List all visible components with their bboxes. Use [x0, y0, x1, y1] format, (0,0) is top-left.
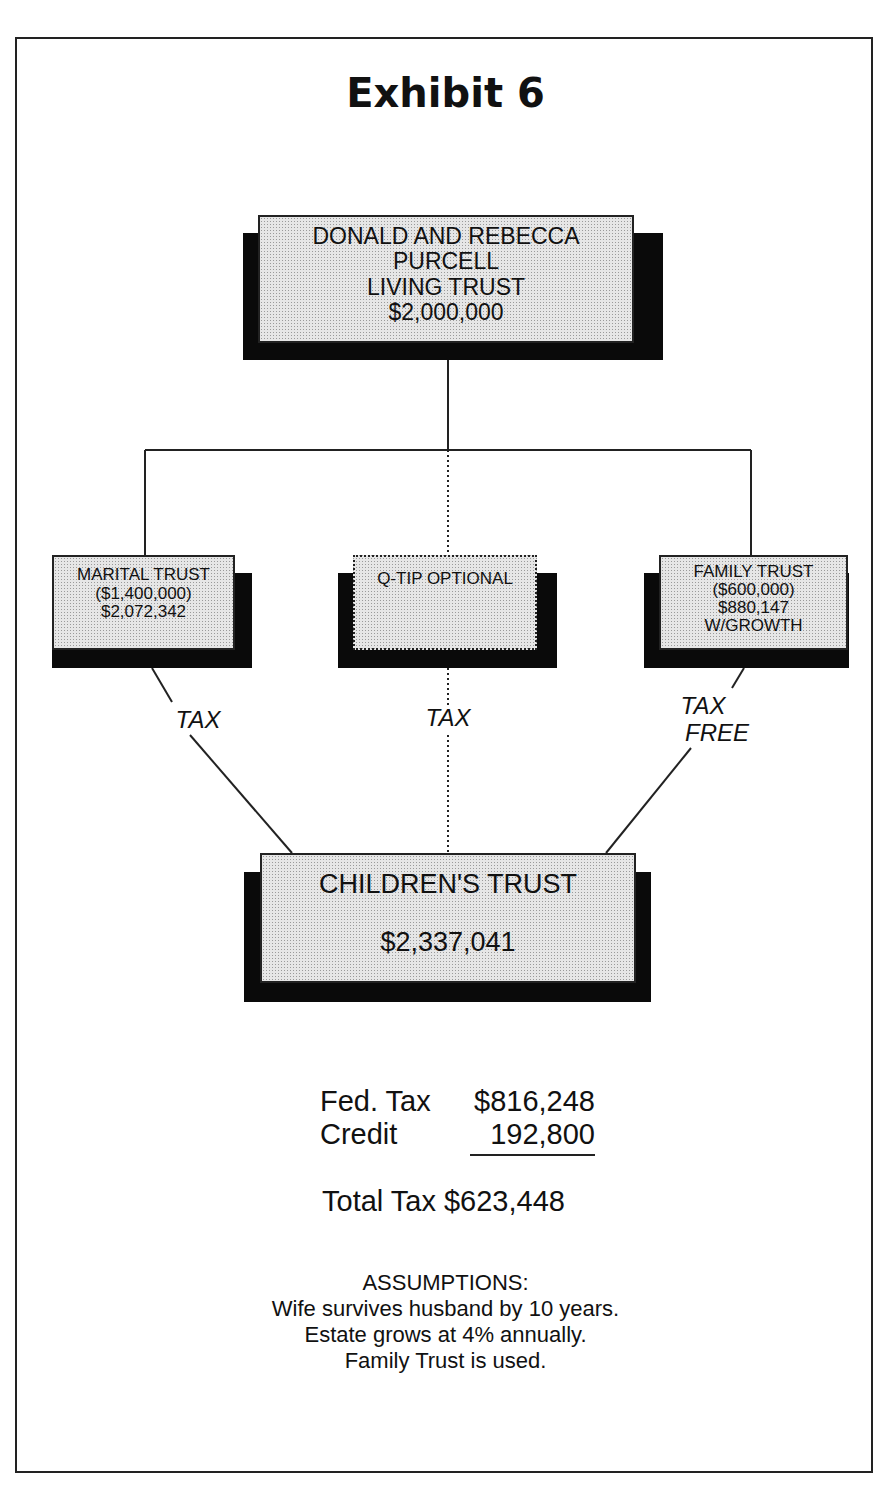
total-tax-label: Total Tax [322, 1185, 436, 1217]
connector-family-lower [606, 748, 691, 853]
tax-row-value: 192,800 [470, 1118, 595, 1155]
marital-trust-line-2: ($1,400,000) [54, 585, 233, 604]
total-tax: Total Tax $623,448 [322, 1185, 565, 1218]
living-trust-box[interactable]: DONALD AND REBECCA PURCELL LIVING TRUST … [258, 215, 634, 343]
childrens-trust-box[interactable]: CHILDREN'S TRUST $2,337,041 [260, 853, 636, 983]
family-trust-line-4: W/GROWTH [661, 617, 846, 635]
tax-row-fed: Fed. Tax $816,248 [320, 1085, 595, 1118]
tax-row-value: $816,248 [470, 1085, 595, 1118]
edge-label-family-free: FREE [677, 720, 757, 745]
edge-label-marital-tax: TAX [163, 707, 233, 732]
assumptions-heading: ASSUMPTIONS: [0, 1270, 891, 1296]
tax-summary: Fed. Tax $816,248 Credit 192,800 [320, 1085, 595, 1156]
tax-row-label: Fed. Tax [320, 1085, 470, 1118]
marital-trust-line-1: MARITAL TRUST [54, 566, 233, 585]
family-trust-line-3: $880,147 [661, 599, 846, 617]
living-trust-line-2: PURCELL [260, 249, 632, 274]
living-trust-line-1: DONALD AND REBECCA [260, 224, 632, 249]
tax-row-label: Credit [320, 1118, 470, 1155]
qtip-box[interactable]: Q-TIP OPTIONAL [353, 555, 537, 650]
family-trust-line-2: ($600,000) [661, 581, 846, 599]
connector-family-upper [732, 668, 744, 688]
living-trust-line-3: LIVING TRUST [260, 275, 632, 300]
assumption-item: Wife survives husband by 10 years. [0, 1296, 891, 1322]
assumption-item: Family Trust is used. [0, 1348, 891, 1374]
family-trust-box[interactable]: FAMILY TRUST ($600,000) $880,147 W/GROWT… [659, 555, 848, 650]
childrens-trust-value: $2,337,041 [262, 928, 634, 958]
family-trust-line-1: FAMILY TRUST [661, 563, 846, 581]
assumptions: ASSUMPTIONS: Wife survives husband by 10… [0, 1270, 891, 1374]
qtip-line-1: Q-TIP OPTIONAL [355, 570, 535, 589]
connector-marital-upper [152, 668, 172, 702]
marital-trust-box[interactable]: MARITAL TRUST ($1,400,000) $2,072,342 [52, 555, 235, 650]
marital-trust-line-3: $2,072,342 [54, 603, 233, 622]
living-trust-line-4: $2,000,000 [260, 300, 632, 325]
tax-row-credit: Credit 192,800 [320, 1118, 595, 1155]
edge-label-qtip-tax: TAX [413, 705, 483, 730]
edge-label-family-tax: TAX [668, 693, 738, 718]
total-tax-value: $623,448 [444, 1185, 565, 1217]
connector-marital-lower [190, 735, 292, 853]
childrens-trust-name: CHILDREN'S TRUST [262, 870, 634, 900]
assumption-item: Estate grows at 4% annually. [0, 1322, 891, 1348]
